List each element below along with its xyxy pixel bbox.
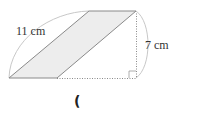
answer-parenthesis: ( [74, 94, 80, 108]
slant-side-label: 11 cm [16, 25, 45, 37]
right-angle-marker [129, 71, 136, 78]
parallelogram [9, 11, 136, 78]
parallelogram-diagram [0, 0, 221, 117]
height-label: 7 cm [145, 39, 169, 51]
